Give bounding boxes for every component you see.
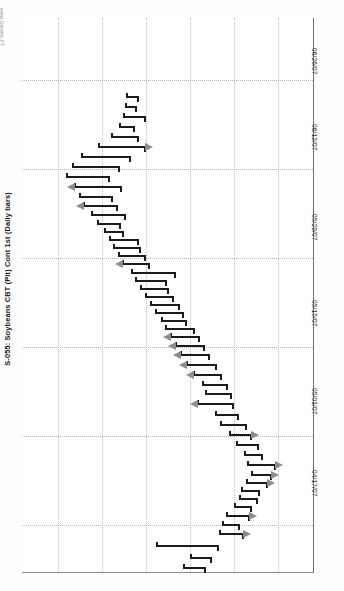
ohlc-range-line bbox=[109, 239, 139, 241]
chart-page: www.Generic.FT S-055: Soybeans CBT (Pit)… bbox=[0, 0, 344, 591]
ohlc-range-line bbox=[113, 247, 141, 249]
ohlc-close-tick bbox=[226, 386, 228, 389]
ohlc-close-tick bbox=[245, 426, 247, 429]
price-gridline-1 bbox=[102, 18, 103, 572]
ohlc-bar bbox=[229, 434, 252, 442]
price-gridline-4 bbox=[234, 18, 235, 572]
ohlc-close-tick bbox=[250, 508, 252, 511]
ohlc-close-tick bbox=[232, 405, 234, 408]
ohlc-range-line bbox=[197, 403, 234, 405]
ohlc-bar bbox=[72, 166, 120, 174]
ohlc-close-tick bbox=[182, 314, 184, 317]
ohlc-close-tick bbox=[217, 547, 219, 550]
ohlc-close-tick bbox=[210, 559, 212, 562]
ohlc-close-tick bbox=[129, 158, 131, 161]
date-gridline-5 bbox=[22, 525, 313, 526]
ohlc-bar bbox=[79, 196, 113, 204]
ohlc-bar bbox=[97, 223, 121, 231]
ohlc-bar bbox=[98, 146, 146, 154]
ohlc-close-tick bbox=[220, 376, 222, 379]
ohlc-bar bbox=[135, 280, 167, 288]
ohlc-open-tick bbox=[246, 479, 248, 482]
ohlc-range-line bbox=[150, 304, 180, 306]
ohlc-close-tick bbox=[148, 265, 150, 268]
ohlc-range-line bbox=[83, 205, 118, 207]
signal-arrow-right bbox=[251, 431, 259, 439]
ohlc-open-tick bbox=[81, 153, 83, 156]
ohlc-range-line bbox=[135, 280, 167, 282]
ohlc-range-line bbox=[122, 263, 150, 265]
ohlc-close-tick bbox=[133, 128, 135, 131]
date-tick-label-2: 05/29/07 bbox=[311, 214, 318, 240]
ohlc-range-line bbox=[79, 196, 113, 198]
ohlc-range-line bbox=[193, 374, 222, 376]
ohlc-close-tick bbox=[137, 138, 139, 141]
ohlc-open-tick bbox=[241, 487, 243, 490]
ohlc-bar bbox=[91, 214, 126, 222]
date-gridline-0 bbox=[22, 80, 313, 81]
ohlc-bar bbox=[215, 414, 239, 422]
ohlc-open-tick bbox=[226, 512, 228, 515]
ohlc-open-tick bbox=[215, 411, 217, 414]
ohlc-bar bbox=[125, 106, 137, 114]
ohlc-bar bbox=[251, 474, 272, 482]
ohlc-bar bbox=[74, 186, 122, 194]
ohlc-bar bbox=[241, 490, 260, 498]
ohlc-range-line bbox=[165, 328, 195, 330]
price-gridline-0 bbox=[58, 18, 59, 572]
ohlc-close-tick bbox=[256, 500, 258, 503]
ohlc-bar bbox=[119, 126, 135, 134]
ohlc-close-tick bbox=[193, 330, 195, 333]
ohlc-bar bbox=[222, 524, 240, 532]
ohlc-range-line bbox=[72, 166, 120, 168]
ohlc-range-line bbox=[219, 533, 244, 535]
signal-arrow-right bbox=[243, 530, 251, 538]
ohlc-range-line bbox=[220, 424, 247, 426]
ohlc-close-tick bbox=[261, 456, 263, 459]
plot-area bbox=[22, 18, 314, 573]
ohlc-bar bbox=[186, 364, 217, 372]
ohlc-range-line bbox=[170, 336, 200, 338]
ohlc-close-tick bbox=[120, 188, 122, 191]
ohlc-close-tick bbox=[230, 395, 232, 398]
signal-arrow-left bbox=[190, 400, 198, 408]
ohlc-open-tick bbox=[234, 503, 236, 506]
ohlc-bar bbox=[197, 403, 234, 411]
ohlc-open-tick bbox=[111, 133, 113, 136]
ohlc-open-tick bbox=[66, 173, 68, 176]
ohlc-bar bbox=[118, 255, 146, 263]
ohlc-close-tick bbox=[185, 322, 187, 325]
date-tick-label-5: 04/17/07 bbox=[311, 470, 318, 496]
ohlc-bar bbox=[219, 533, 244, 541]
date-tick-label-1: 06/12/07 bbox=[311, 124, 318, 150]
ohlc-close-tick bbox=[108, 178, 110, 181]
ohlc-close-tick bbox=[119, 225, 121, 228]
ohlc-range-line bbox=[161, 320, 187, 322]
ohlc-bar bbox=[155, 312, 184, 320]
ohlc-close-tick bbox=[137, 241, 139, 244]
price-gridline-5 bbox=[278, 18, 279, 572]
ohlc-close-tick bbox=[204, 569, 206, 572]
ohlc-range-line bbox=[247, 464, 276, 466]
ohlc-range-line bbox=[156, 545, 219, 547]
ohlc-range-line bbox=[123, 116, 146, 118]
ohlc-open-tick bbox=[72, 163, 74, 166]
ohlc-bar bbox=[140, 288, 169, 296]
ohlc-close-tick bbox=[135, 108, 137, 111]
ohlc-bar bbox=[239, 498, 258, 506]
ohlc-bar bbox=[104, 231, 124, 239]
ohlc-bar bbox=[111, 136, 139, 144]
ohlc-close-tick bbox=[174, 274, 176, 277]
ohlc-bar bbox=[170, 336, 200, 344]
ohlc-bar bbox=[244, 454, 263, 462]
date-tick-label-3: 05/15/07 bbox=[311, 300, 318, 326]
signal-arrow-right bbox=[145, 143, 153, 151]
ohlc-close-tick bbox=[122, 233, 124, 236]
ohlc-bar bbox=[165, 328, 195, 336]
ohlc-range-line bbox=[186, 364, 217, 366]
date-gridline-1 bbox=[22, 169, 313, 170]
ohlc-bar bbox=[190, 557, 212, 565]
ohlc-bar bbox=[66, 176, 110, 184]
ohlc-range-line bbox=[111, 136, 139, 138]
ohlc-range-line bbox=[236, 444, 259, 446]
